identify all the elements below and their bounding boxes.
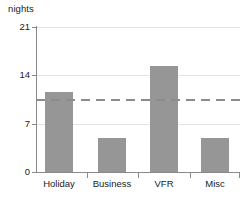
y-axis-title: nights [8, 3, 34, 14]
y-tick-mark-14 [32, 75, 37, 76]
y-axis-line [36, 26, 37, 173]
mean-reference-line [36, 99, 240, 101]
y-tick-label-14: 14 [4, 70, 30, 80]
x-tick-label-misc: Misc [190, 179, 240, 189]
bar-vfr [150, 66, 178, 172]
x-tick-mark-4 [239, 173, 240, 178]
x-tick-label-holiday: Holiday [33, 179, 85, 189]
y-tick-mark-7 [32, 124, 37, 125]
y-tick-label-21: 21 [4, 22, 30, 32]
x-tick-label-business: Business [84, 179, 140, 189]
gridline-21 [36, 27, 240, 28]
x-tick-mark-3 [190, 173, 191, 178]
y-tick-label-0: 0 [4, 167, 30, 177]
bar-chart: nights 21 14 7 0 Holiday Business VFR Mi… [0, 0, 243, 198]
y-tick-label-7: 7 [4, 119, 30, 129]
gridline-14 [36, 75, 240, 76]
y-tick-mark-21 [32, 27, 37, 28]
x-tick-mark-1 [87, 173, 88, 178]
bar-holiday [45, 92, 73, 172]
bar-business [98, 138, 126, 172]
x-tick-mark-2 [138, 173, 139, 178]
x-tick-label-vfr: VFR [138, 179, 190, 189]
y-tick-mark-0 [32, 172, 37, 173]
bar-misc [201, 138, 229, 172]
